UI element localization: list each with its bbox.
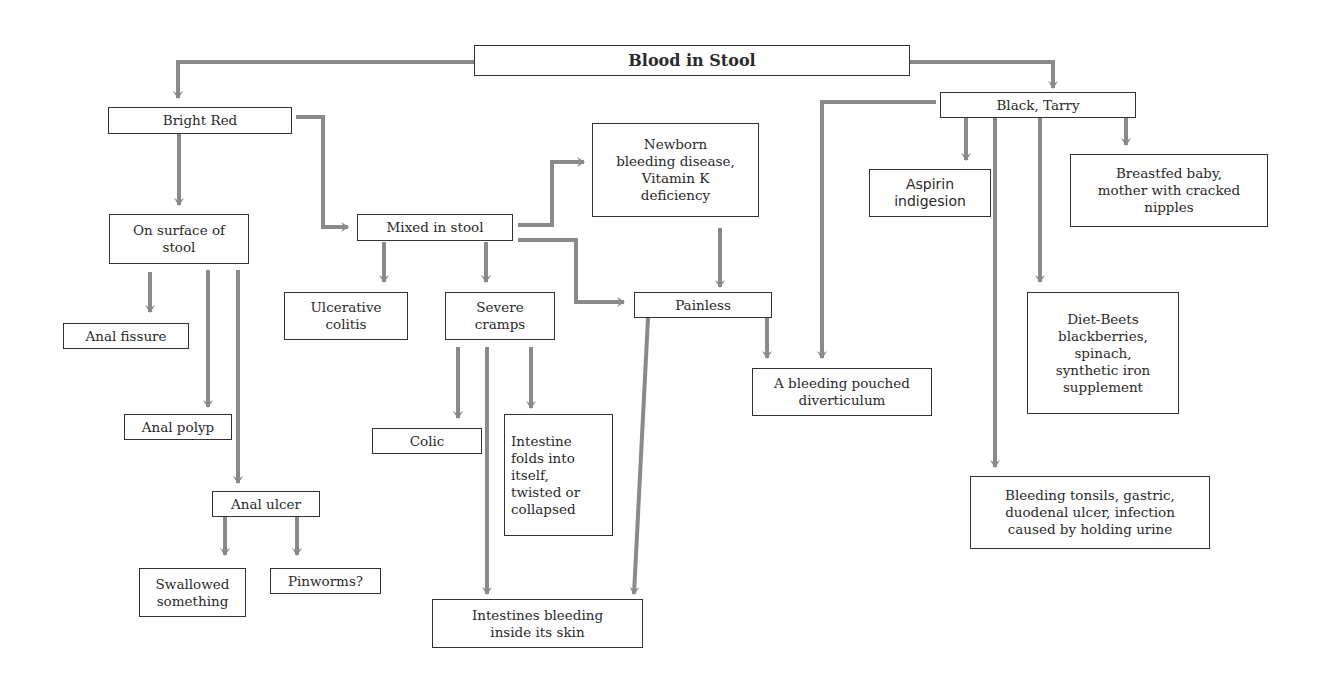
node-pinworms: Pinworms?	[270, 568, 381, 594]
node-root-blood-in-stool: Blood in Stool	[474, 45, 910, 76]
node-intestine-folds: Intestine folds into itself, twisted or …	[504, 414, 613, 536]
node-bright-red: Bright Red	[108, 107, 292, 134]
node-breastfed-baby: Breastfed baby, mother with cracked nipp…	[1070, 154, 1268, 227]
node-colic: Colic	[372, 428, 482, 454]
node-on-surface-of-stool: On surface of stool	[109, 214, 249, 264]
edge-bright-red-mixed	[296, 117, 348, 227]
edge-painless-intestines-bleeding	[634, 318, 648, 594]
node-diet-beets: Diet-Beets blackberries, spinach, synthe…	[1027, 292, 1179, 414]
node-bleeding-tonsils: Bleeding tonsils, gastric, duodenal ulce…	[970, 476, 1210, 549]
node-black-tarry: Black, Tarry	[940, 92, 1136, 118]
node-aspirin-indigestion: Aspirin indigesion	[869, 169, 991, 217]
node-intestines-bleeding-inside-skin: Intestines bleeding inside its skin	[432, 599, 643, 648]
node-bleeding-pouched-diverticulum: A bleeding pouched diverticulum	[752, 368, 932, 416]
node-anal-fissure: Anal fissure	[63, 323, 189, 349]
edge-mixed-newborn	[518, 162, 584, 225]
node-severe-cramps: Severe cramps	[445, 292, 555, 340]
node-swallowed-something: Swallowed something	[139, 568, 246, 617]
edge-black-tarry-bleeding-pouch	[822, 102, 936, 358]
edge-root-black-tarry	[910, 62, 1053, 88]
edge-root-bright-red	[178, 62, 475, 98]
node-anal-ulcer: Anal ulcer	[212, 491, 320, 517]
node-painless: Painless	[634, 292, 772, 318]
node-newborn-bleeding-disease: Newborn bleeding disease, Vitamin K defi…	[592, 123, 759, 217]
node-ulcerative-colitis: Ulcerative colitis	[284, 292, 408, 340]
node-anal-polyp: Anal polyp	[124, 414, 232, 440]
node-mixed-in-stool: Mixed in stool	[357, 214, 513, 241]
